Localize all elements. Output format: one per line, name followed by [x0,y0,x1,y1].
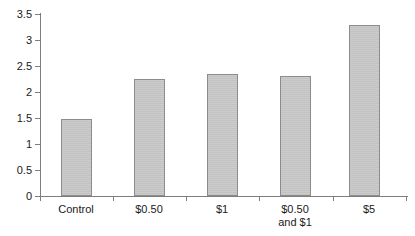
y-tick-label-7: 3.5 [0,9,32,20]
x-tick-boundary-3 [259,196,260,201]
x-tick-boundary-4 [333,196,334,201]
bar-050-and-1 [280,76,311,196]
bar-050 [134,79,165,196]
x-tick-boundary-1 [113,196,114,201]
y-tick-label-3: 1.5 [0,113,32,124]
y-tick-label-2: 1 [0,139,32,150]
y-tick-label-0: 0 [0,191,32,202]
x-tick-boundary-5 [406,196,407,201]
x-tick-boundary-2 [186,196,187,201]
x-axis-line [40,196,408,197]
x-category-label-5: $5 [326,203,412,216]
y-tick-label-1: 0.5 [0,165,32,176]
bar-control [61,119,92,196]
x-tick-boundary-0 [40,196,41,201]
y-tick-label-4: 2 [0,87,32,98]
bar-1 [207,74,238,196]
bar-5 [349,25,380,196]
y-tick-label-5: 2.5 [0,61,32,72]
y-tick-label-6: 3 [0,35,32,46]
bar-chart: 0 0.5 1 1.5 2 2.5 3 3.5 Control $0.50 $1… [0,0,415,236]
plot-area [40,14,408,196]
